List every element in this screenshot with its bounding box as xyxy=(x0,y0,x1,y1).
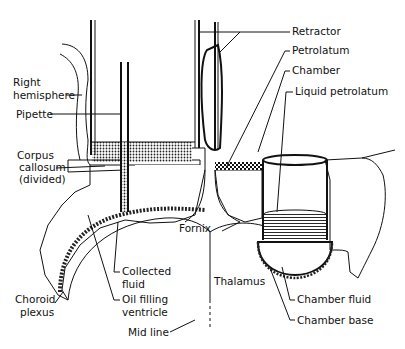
label-mid-line: Mid line xyxy=(128,326,169,338)
label-retractor: Retractor xyxy=(292,25,341,37)
label-collected-fluid-line2: fluid xyxy=(122,278,145,290)
label-oil-filling-line2: ventricle xyxy=(122,306,168,318)
label-fornix: Fornix xyxy=(179,222,211,234)
label-chamber-fluid: Chamber fluid xyxy=(297,293,371,305)
label-choroid-plexus-line2: plexus xyxy=(20,306,54,318)
label-pipette: Pipette xyxy=(16,108,53,120)
label-corpus-callosum-line1: Corpus xyxy=(17,149,54,161)
label-choroid-plexus-line1: Choroid xyxy=(15,293,56,305)
label-liquid-petrolatum: Liquid petrolatum xyxy=(295,85,388,97)
label-chamber: Chamber xyxy=(292,64,341,76)
label-collected-fluid-line1: Collected xyxy=(122,265,171,277)
label-right-hemisphere-line2: hemisphere xyxy=(13,89,75,101)
label-chamber-base: Chamber base xyxy=(297,314,373,326)
label-right-hemisphere-line1: Right xyxy=(13,76,41,88)
chamber xyxy=(258,155,332,278)
label-petrolatum: Petrolatum xyxy=(292,44,349,56)
label-thalamus: Thalamus xyxy=(213,275,265,287)
pipette xyxy=(121,62,128,212)
leader-lines xyxy=(50,32,295,332)
brain-ventricle-diagram: Retractor Petrolatum Chamber Liquid petr… xyxy=(0,0,405,349)
label-corpus-callosum-line2: callosum xyxy=(19,161,66,173)
label-oil-filling-line1: Oil filling xyxy=(122,293,168,305)
right-hemisphere-outline xyxy=(60,44,90,165)
retractor-right xyxy=(195,20,222,150)
label-corpus-callosum-line3: (divided) xyxy=(19,173,66,185)
retractor-left xyxy=(91,20,95,155)
